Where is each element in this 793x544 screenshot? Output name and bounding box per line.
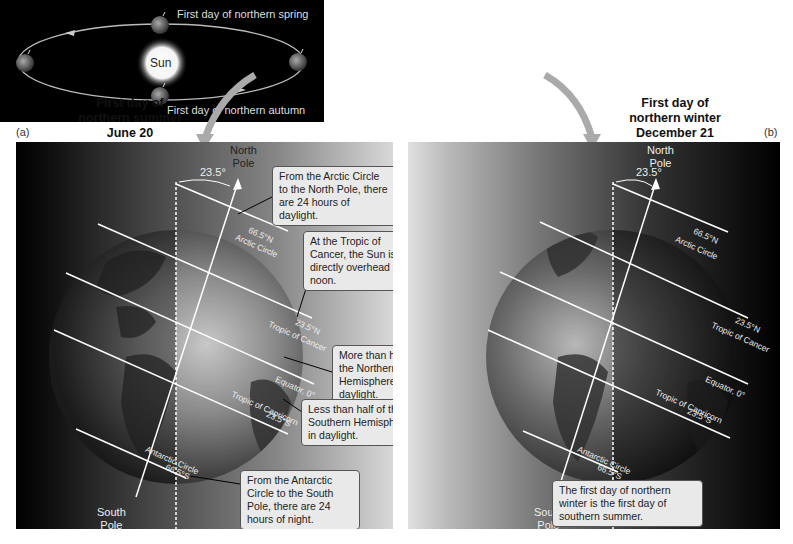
callout-southern-summer: The first day of northern winter is the …	[552, 480, 703, 527]
summer-title-line1: First day of	[60, 96, 200, 111]
callout-northern-hemisphere: More than half of the Northern Hemispher…	[332, 345, 393, 405]
arrow-to-summer-icon	[205, 75, 255, 138]
callout-antarctic-night: From the Antarctic Circle to the South P…	[240, 470, 360, 529]
north-pole-line2: Pole	[647, 157, 674, 170]
summer-title-line2: northern summer	[60, 111, 200, 126]
callout-arctic-daylight: From the Arctic Circle to the North Pole…	[272, 166, 393, 226]
summer-panel: 23.5° North Pole South Pole 66.5°N Arcti…	[16, 142, 393, 529]
panel-b-label: (b)	[764, 126, 777, 138]
summer-title: First day of northern summer June 20	[60, 96, 200, 141]
winter-title-line2: northern winter	[605, 111, 745, 126]
south-pole-label: South Pole	[97, 506, 126, 529]
callout-southern-hemisphere: Less than half of the Southern Hemispher…	[301, 399, 393, 446]
winter-title-date: December 21	[605, 126, 745, 141]
arrow-to-winter-icon	[545, 75, 592, 138]
north-pole-label: North Pole	[230, 144, 257, 170]
north-pole-line1: North	[647, 144, 674, 157]
tilt-angle-label: 23.5°	[200, 166, 226, 178]
south-pole-line2: Pole	[97, 519, 126, 529]
callout-tropic-cancer: At the Tropic of Cancer, the Sun is dire…	[303, 231, 393, 291]
winter-panel: 23.5° North Pole South Pole 66.5°N Arcti…	[408, 142, 780, 529]
winter-title-line1: First day of	[605, 96, 745, 111]
north-pole-line2: Pole	[230, 157, 257, 170]
panel-a-label: (a)	[16, 126, 29, 138]
summer-title-date: June 20	[60, 126, 200, 141]
north-pole-line1: North	[230, 144, 257, 157]
north-pole-label: North Pole	[647, 144, 674, 170]
winter-title: First day of northern winter December 21	[605, 96, 745, 141]
south-pole-line1: South	[97, 506, 126, 519]
